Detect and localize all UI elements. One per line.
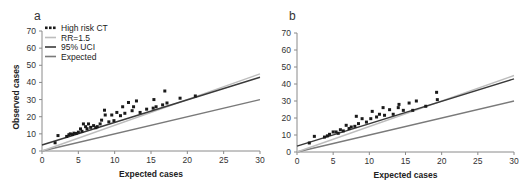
y-tick-label: 0: [286, 147, 291, 157]
data-point: [337, 132, 340, 135]
data-point: [155, 105, 158, 108]
data-point: [99, 122, 102, 125]
data-point: [112, 119, 115, 122]
x-tick-label: 10: [110, 155, 120, 165]
data-point: [365, 121, 368, 124]
data-point: [361, 117, 364, 120]
x-tick-label: 30: [509, 156, 519, 166]
data-point: [152, 98, 155, 101]
y-tick-label: 10: [27, 129, 37, 139]
panel-label: a: [34, 9, 41, 23]
data-point: [139, 111, 142, 114]
data-point: [353, 125, 356, 128]
data-point: [369, 117, 372, 120]
y-tick-label: 20: [282, 113, 292, 123]
chart-panel-b: b010203040506070051015202530Expected cas…: [282, 9, 519, 180]
y-tick-label: 30: [282, 96, 292, 106]
data-point: [145, 108, 148, 111]
data-point: [77, 131, 80, 134]
data-point: [82, 122, 85, 125]
data-point: [375, 115, 378, 118]
data-point: [397, 106, 400, 109]
data-point: [392, 113, 395, 116]
data-point: [104, 114, 107, 117]
x-tick-label: 25: [473, 156, 483, 166]
data-point: [371, 110, 374, 113]
chart-panel-a: a010203040506070051015202530Expected cas…: [11, 9, 265, 179]
legend-marker-dots: [49, 27, 52, 30]
x-tick-label: 10: [365, 156, 375, 166]
legend-marker-dots: [45, 27, 48, 30]
data-point: [179, 97, 182, 100]
y-tick-label: 30: [27, 95, 37, 105]
data-point: [357, 122, 360, 125]
x-tick-label: 0: [295, 156, 300, 166]
data-point: [382, 106, 385, 109]
series-line-95-uci: [297, 79, 514, 146]
x-tick-label: 15: [146, 155, 156, 165]
data-point: [132, 105, 135, 108]
data-point: [402, 109, 405, 112]
y-tick-label: 0: [31, 146, 36, 156]
x-tick-label: 20: [437, 156, 447, 166]
data-point: [165, 102, 168, 105]
x-tick-label: 20: [183, 155, 193, 165]
data-point: [308, 141, 311, 144]
data-point: [110, 114, 113, 117]
series-line-expected: [42, 100, 260, 151]
data-point: [388, 108, 391, 111]
legend-label: Expected: [61, 52, 97, 62]
x-tick-label: 30: [255, 155, 265, 165]
data-point: [194, 94, 197, 97]
data-point: [339, 128, 342, 131]
data-point: [56, 134, 59, 137]
data-point: [424, 105, 427, 108]
data-point: [89, 126, 92, 129]
y-tick-label: 50: [282, 62, 292, 72]
data-point: [96, 125, 99, 128]
data-point: [345, 124, 348, 127]
legend-label: RR=1.5: [61, 33, 90, 43]
data-point: [408, 102, 411, 105]
legend-label: 95% UCI: [61, 42, 95, 52]
x-axis-title: Expected cases: [119, 169, 183, 179]
data-point: [415, 100, 418, 103]
x-tick-label: 5: [331, 156, 336, 166]
legend-label: High risk CT: [61, 23, 108, 33]
data-point: [135, 99, 138, 102]
data-point: [313, 135, 316, 138]
data-point: [342, 129, 345, 132]
data-point: [323, 136, 326, 139]
data-point: [131, 109, 134, 112]
y-tick-label: 10: [282, 130, 292, 140]
x-tick-label: 25: [219, 155, 229, 165]
data-point: [121, 105, 124, 108]
y-tick-label: 50: [27, 60, 37, 70]
y-tick-label: 40: [27, 77, 37, 87]
data-point: [163, 90, 166, 93]
data-point: [411, 109, 414, 112]
y-tick-label: 60: [282, 45, 292, 55]
data-point: [87, 122, 90, 125]
figure: a010203040506070051015202530Expected cas…: [0, 0, 529, 191]
data-point: [328, 133, 331, 136]
data-point: [54, 141, 57, 144]
data-point: [103, 109, 106, 112]
series-line-rr-1-5: [42, 74, 260, 151]
series-line-expected: [297, 101, 514, 152]
data-point: [127, 101, 130, 104]
x-axis-title: Expected cases: [374, 170, 438, 180]
data-point: [436, 98, 439, 101]
legend-marker-dots: [53, 27, 56, 30]
x-tick-label: 15: [401, 156, 411, 166]
y-tick-label: 70: [27, 26, 37, 36]
data-point: [115, 111, 118, 114]
data-point: [332, 130, 335, 133]
y-tick-label: 40: [282, 79, 292, 89]
x-tick-label: 5: [76, 155, 81, 165]
data-point: [152, 107, 155, 110]
y-tick-label: 20: [27, 112, 37, 122]
data-point: [378, 113, 381, 116]
data-point: [355, 115, 358, 118]
data-point: [383, 114, 386, 117]
